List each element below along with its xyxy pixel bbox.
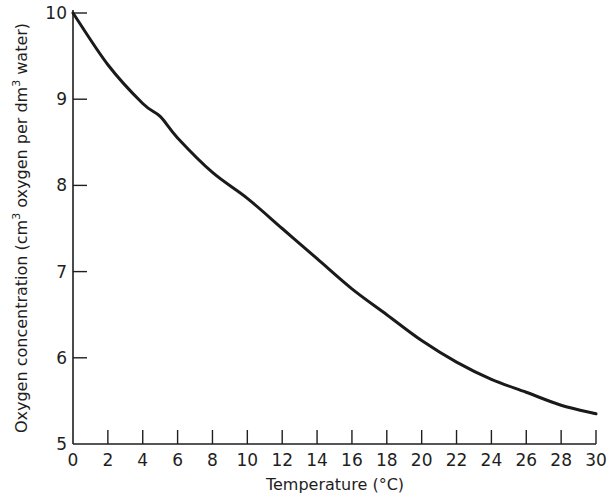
y-axis-title: Oxygen concentration (cm3 oxygen per dm3… (10, 23, 31, 433)
x-tick-label: 22 (446, 450, 468, 470)
x-tick-label: 14 (306, 450, 328, 470)
chart: 5678910 024681012141618202224262830 Temp… (0, 0, 616, 502)
y-tick-label: 9 (56, 89, 67, 109)
x-tick-label: 0 (68, 450, 79, 470)
y-tick-label: 7 (56, 262, 67, 282)
x-tick-label: 30 (585, 450, 607, 470)
x-axis: 024681012141618202224262830 (68, 430, 607, 470)
x-tick-label: 24 (481, 450, 503, 470)
y-tick-label: 5 (56, 434, 67, 454)
x-tick-label: 4 (137, 450, 148, 470)
x-tick-label: 26 (515, 450, 537, 470)
y-tick-label: 10 (45, 3, 67, 23)
x-tick-label: 12 (271, 450, 293, 470)
x-tick-label: 2 (102, 450, 113, 470)
x-tick-label: 8 (207, 450, 218, 470)
x-tick-label: 6 (172, 450, 183, 470)
x-tick-label: 20 (411, 450, 433, 470)
x-tick-label: 10 (237, 450, 259, 470)
x-axis-title: Temperature (°C) (265, 475, 404, 494)
x-tick-label: 18 (376, 450, 398, 470)
y-tick-label: 8 (56, 175, 67, 195)
x-tick-label: 28 (550, 450, 572, 470)
y-axis: 5678910 (45, 3, 87, 454)
data-line (73, 13, 596, 414)
x-tick-label: 16 (341, 450, 363, 470)
y-tick-label: 6 (56, 348, 67, 368)
